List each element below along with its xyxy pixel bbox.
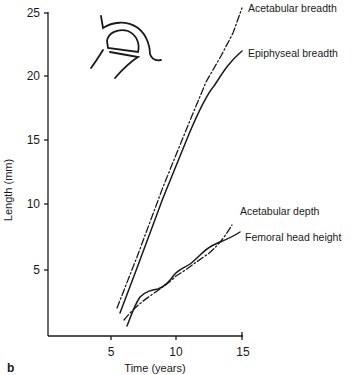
series-femoral-head-height (127, 232, 240, 326)
y-tick-label-25: 25 (27, 6, 41, 20)
y-tick-label-15: 15 (27, 133, 41, 147)
x-axis-label: Time (years) (124, 362, 185, 374)
label-acetabular-depth: Acetabular depth (240, 205, 320, 217)
panel-label: b (7, 361, 14, 375)
hip-joint-diagram-icon (91, 16, 161, 78)
growth-chart: 25 20 15 10 5 5 10 15 Time (years) Lengt… (0, 0, 354, 375)
series-acetabular-depth (124, 225, 232, 320)
y-tick-label-10: 10 (27, 197, 41, 211)
x-tick-label-15: 15 (236, 345, 250, 359)
label-epiphyseal-breadth: Epiphyseal breadth (248, 47, 338, 59)
y-axis-label: Length (mm) (2, 159, 14, 221)
label-femoral-head-height: Femoral head height (245, 231, 341, 243)
y-tick-label-20: 20 (27, 69, 41, 83)
label-acetabular-breadth: Acetabular breadth (248, 2, 337, 14)
y-tick-label-5: 5 (33, 263, 40, 277)
x-tick-label-5: 5 (108, 345, 115, 359)
series-epiphyseal-breadth (120, 51, 242, 313)
x-tick-label-10: 10 (169, 345, 183, 359)
axes (44, 12, 243, 340)
